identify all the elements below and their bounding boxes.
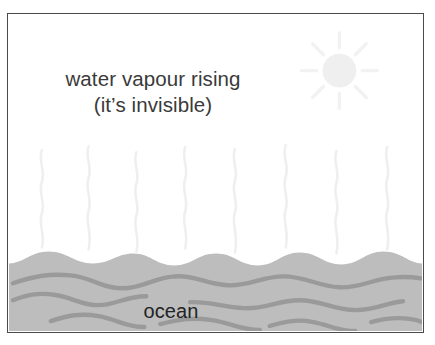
sun-ray — [355, 44, 366, 55]
vapour-caption: water vapour rising (it’s invisible) — [8, 66, 298, 118]
scene-illustration — [8, 14, 423, 332]
vapour-caption-line-2: (it’s invisible) — [8, 92, 298, 118]
vapour-squiggle — [386, 147, 388, 249]
vapour-squiggle — [234, 149, 236, 252]
diagram-frame: water vapour rising (it’s invisible) oce… — [7, 13, 424, 333]
sun-ray — [313, 87, 324, 98]
vapour-squiggle — [285, 145, 287, 247]
vapour-squiggle — [41, 150, 43, 247]
sun-disc — [322, 54, 356, 88]
vapour-caption-line-1: water vapour rising — [8, 66, 298, 92]
water-cycle-diagram: water vapour rising (it’s invisible) oce… — [0, 0, 435, 345]
ocean-label: ocean — [116, 300, 226, 322]
vapour-squiggle-group — [41, 145, 389, 253]
vapour-squiggle — [335, 151, 337, 253]
sun-ray — [313, 44, 324, 55]
vapour-squiggle — [135, 152, 137, 251]
vapour-squiggle — [184, 147, 186, 248]
vapour-squiggle — [87, 146, 89, 249]
sun-ray — [355, 87, 366, 98]
